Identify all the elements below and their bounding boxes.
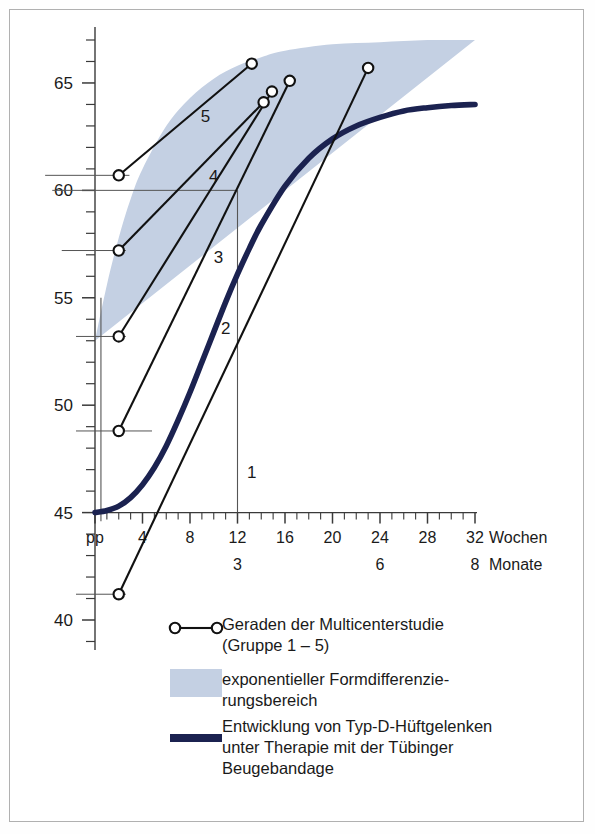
x-tick-label-32: 32	[466, 529, 484, 546]
chart-page: 404550556065pp48121620242832Wochen368Mon…	[0, 0, 595, 834]
legend-text-band-line2: rungsbereich	[222, 691, 317, 709]
y-tick-label-65: 65	[54, 74, 73, 93]
y-tick-label-40: 40	[54, 611, 73, 630]
group-label-3: 3	[214, 248, 223, 267]
legend-text-band-line1: exponentieller Formdifferenzie-	[222, 670, 449, 688]
group-end-marker-5	[247, 58, 257, 68]
group-label-4: 4	[209, 167, 218, 186]
legend-text-therapy-line2: unter Therapie mit der Tübinger	[222, 738, 454, 756]
x-month-label-3: 3	[233, 556, 242, 573]
x-axis-unit-weeks: Wochen	[489, 529, 547, 546]
y-tick-label-50: 50	[54, 396, 73, 415]
group-label-5: 5	[201, 107, 210, 126]
group-start-marker-2	[114, 426, 124, 436]
chart-svg: 404550556065pp48121620242832Wochen368Mon…	[0, 0, 595, 834]
x-month-label-6: 6	[376, 556, 385, 573]
x-tick-label-20: 20	[324, 529, 342, 546]
group-label-2: 2	[221, 319, 230, 338]
group-start-marker-5	[114, 170, 124, 180]
x-tick-label-16: 16	[276, 529, 294, 546]
legend-swatch-band	[170, 669, 222, 697]
legend-text-therapy-line1: Entwicklung von Typ-D-Hüftgelenken	[222, 717, 492, 735]
x-tick-label-8: 8	[186, 529, 195, 546]
group-label-1: 1	[247, 463, 256, 482]
group-end-marker-4	[258, 97, 268, 107]
group-end-marker-3	[267, 86, 277, 96]
x-axis-unit-months: Monate	[489, 556, 542, 573]
y-tick-label-45: 45	[54, 504, 73, 523]
x-tick-label-12: 12	[229, 529, 247, 546]
legend-marker-therapy-line	[170, 734, 222, 742]
group-start-marker-1	[114, 589, 124, 599]
group-end-marker-1	[363, 63, 373, 73]
x-tick-label-pp: pp	[86, 529, 104, 546]
x-month-label-8: 8	[471, 556, 480, 573]
legend-text-multicenter-line1: Geraden der Multicenterstudie	[222, 615, 444, 633]
group-end-marker-2	[285, 76, 295, 86]
y-tick-label-55: 55	[54, 289, 73, 308]
legend-text-multicenter-line2: (Gruppe 1 – 5)	[222, 636, 329, 654]
group-start-marker-3	[114, 331, 124, 341]
group-start-marker-4	[114, 245, 124, 255]
legend-marker-multicenter-circle-right	[212, 623, 222, 633]
x-tick-label-24: 24	[371, 529, 389, 546]
legend-text-therapy-line3: Beugebandage	[222, 759, 334, 777]
legend-marker-multicenter-circle-left	[170, 623, 180, 633]
x-tick-label-28: 28	[419, 529, 437, 546]
